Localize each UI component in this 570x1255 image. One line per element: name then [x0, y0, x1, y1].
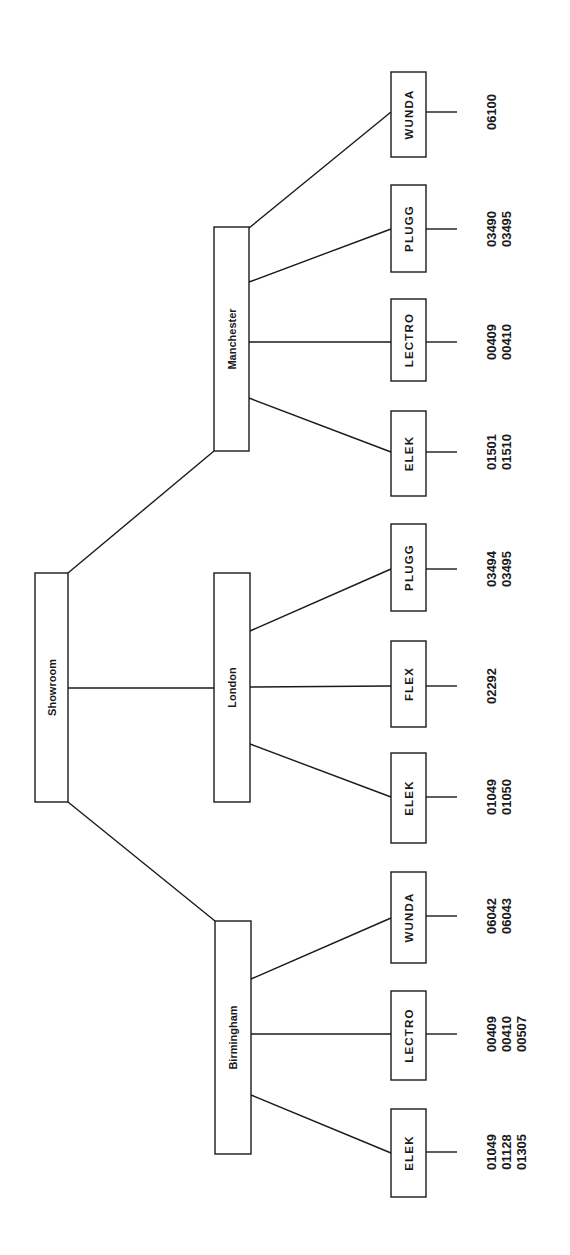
city-node-manchester: Manchester	[214, 227, 249, 451]
product-code: 00409	[484, 1016, 499, 1052]
city-node-manchester-label: Manchester	[226, 308, 238, 370]
edge-manchester-to-wunda	[249, 112, 391, 228]
product-code: 01049	[484, 779, 499, 815]
product-code: 01305	[514, 1134, 529, 1170]
product-code: 06043	[499, 898, 514, 934]
product-code: 01501	[484, 434, 499, 470]
code-list: 0349003495	[484, 211, 514, 247]
brand-node-manchester-elek: ELEK	[391, 411, 426, 496]
code-list: 0349403495	[484, 550, 514, 587]
edge-london-to-plugg	[250, 569, 391, 631]
brand-node-manchester-elek-label: ELEK	[403, 436, 415, 471]
product-code: 03495	[499, 551, 514, 587]
product-code: 03495	[499, 211, 514, 247]
code-list: 004090041000507	[484, 1016, 529, 1052]
brand-node-london-elek-label: ELEK	[403, 780, 415, 815]
city-node-birmingham-label: Birmingham	[227, 1005, 239, 1069]
showroom-hierarchy-diagram: ShowroomManchesterWUNDAPLUGGLECTROELEKLo…	[0, 0, 570, 1255]
code-list: 0040900410	[484, 324, 514, 360]
product-code: 01510	[499, 434, 514, 470]
edge-london-to-elek	[250, 744, 391, 797]
edge-showroom-to-birmingham	[68, 802, 215, 921]
code-list: 02292	[484, 668, 499, 704]
brand-node-manchester-lectro: LECTRO	[391, 299, 426, 381]
edge-birmingham-to-elek	[251, 1095, 391, 1153]
brand-node-birmingham-lectro: LECTRO	[391, 991, 426, 1080]
brand-node-london-plugg: PLUGG	[391, 524, 426, 611]
brand-node-london-flex: FLEX	[391, 641, 426, 727]
product-code: 00409	[484, 324, 499, 360]
edge-showroom-to-manchester	[68, 451, 214, 573]
code-list: 0150101510	[484, 434, 514, 470]
brand-node-birmingham-elek-label: ELEK	[403, 1135, 415, 1170]
brand-node-birmingham-wunda-label: WUNDA	[403, 892, 415, 942]
brand-node-london-plugg-label: PLUGG	[403, 544, 415, 591]
product-code: 01128	[499, 1134, 514, 1169]
product-codes: 0610003490034950040900410015010151003494…	[484, 94, 529, 1170]
product-code: 00410	[499, 1016, 514, 1052]
product-code: 06042	[484, 898, 499, 934]
product-code: 00507	[514, 1016, 529, 1052]
product-code: 03490	[484, 211, 499, 247]
code-list: 0104901050	[484, 779, 514, 815]
edge-birmingham-to-wunda	[251, 918, 391, 979]
brand-node-london-elek: ELEK	[391, 753, 426, 843]
brand-node-london-flex-label: FLEX	[403, 667, 415, 701]
brand-node-manchester-lectro-label: LECTRO	[403, 313, 415, 367]
product-code: 06100	[484, 94, 499, 130]
edge-london-to-flex	[250, 686, 391, 687]
brand-node-manchester-plugg-label: PLUGG	[403, 205, 415, 252]
city-node-london: London	[214, 573, 250, 802]
brand-node-manchester-wunda-label: WUNDA	[403, 89, 415, 139]
product-code: 01049	[484, 1134, 499, 1170]
product-code: 03494	[484, 550, 499, 587]
brand-node-manchester-wunda: WUNDA	[391, 72, 426, 157]
product-code: 00410	[499, 324, 514, 360]
edge-manchester-to-elek	[249, 398, 391, 452]
brand-node-birmingham-wunda: WUNDA	[391, 872, 426, 963]
diagram-nodes: ShowroomManchesterWUNDAPLUGGLECTROELEKLo…	[35, 72, 426, 1197]
code-list: 0604206043	[484, 898, 514, 934]
brand-node-birmingham-lectro-label: LECTRO	[403, 1008, 415, 1062]
city-node-london-label: London	[226, 667, 238, 708]
root-node-showroom-label: Showroom	[46, 659, 58, 716]
edge-manchester-to-plugg	[249, 229, 391, 282]
product-code: 01050	[499, 779, 514, 815]
brand-node-manchester-plugg: PLUGG	[391, 185, 426, 272]
root-node-showroom: Showroom	[35, 573, 68, 802]
code-list: 010490112801305	[484, 1134, 529, 1170]
product-code: 02292	[484, 668, 499, 704]
city-node-birmingham: Birmingham	[215, 921, 251, 1154]
brand-node-birmingham-elek: ELEK	[391, 1109, 426, 1197]
code-list: 06100	[484, 94, 499, 130]
